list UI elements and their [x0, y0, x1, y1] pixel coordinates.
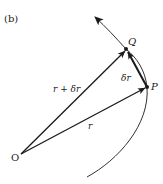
point-q-label: Q	[128, 36, 136, 47]
point-p-label: P	[150, 81, 158, 92]
point-q-dot	[124, 47, 128, 51]
vector-r-plus-dr-label: r + δr	[53, 84, 81, 94]
vector-diagram: (b) O P Q r + δr r δr	[0, 0, 163, 184]
origin-label: O	[11, 152, 19, 163]
vector-dr-label: δr	[121, 73, 131, 83]
vector-r-label: r	[88, 121, 93, 131]
point-p-dot	[145, 85, 149, 89]
vector-dr-arrow	[128, 52, 147, 87]
panel-label: (b)	[4, 13, 18, 24]
trajectory-curve	[87, 17, 147, 177]
vector-r-plus-dr-arrow	[21, 51, 125, 154]
